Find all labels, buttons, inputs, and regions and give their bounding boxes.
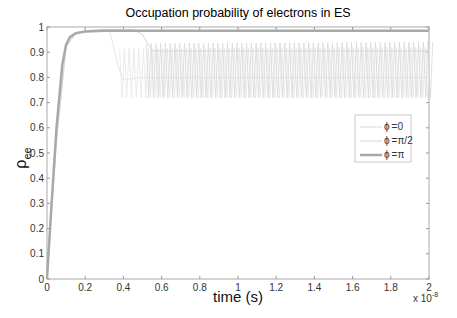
y-tick-label: 0.7 xyxy=(30,97,44,108)
y-axis-label-main: ρ xyxy=(12,160,29,169)
y-tick-label: 0 xyxy=(38,274,44,285)
x-tick-label: 1.4 xyxy=(307,282,321,293)
legend: ϕ=0 ϕ=π/2 ϕ=π xyxy=(355,115,413,162)
svg-text:ρee: ρee xyxy=(12,147,33,168)
y-tick-label: 0.1 xyxy=(30,248,44,259)
legend-label-phi-pi-half: ϕ=π/2 xyxy=(384,135,413,146)
x-tick-label: 0.6 xyxy=(155,282,169,293)
y-tick-label: 0.4 xyxy=(30,173,44,184)
chart-figure: Occupation probability of electrons in E… xyxy=(0,0,457,318)
y-tick-label: 0.2 xyxy=(30,223,44,234)
y-tick-label: 0.9 xyxy=(30,47,44,58)
x-axis-multiplier: x 10-8 xyxy=(413,291,438,304)
legend-label-phi-0: ϕ=0 xyxy=(384,121,403,132)
x-tick-label: 0 xyxy=(44,282,50,293)
y-tick-label: 0.8 xyxy=(30,72,44,83)
y-tick-label: 1 xyxy=(38,22,44,33)
x-tick-label: 0.2 xyxy=(78,282,92,293)
x-axis-label: time (s) xyxy=(213,288,263,305)
legend-label-phi-pi: ϕ=π xyxy=(384,149,404,160)
x-tick-label: 1.2 xyxy=(269,282,283,293)
y-tick-label: 0.6 xyxy=(30,122,44,133)
x-tick-label: 1.8 xyxy=(384,282,398,293)
x-tick-label: 0.8 xyxy=(193,282,207,293)
y-axis-label-sub: ee xyxy=(21,147,33,159)
y-tick-label: 0.3 xyxy=(30,198,44,209)
x-tick-label: 0.4 xyxy=(116,282,130,293)
y-axis-label: ρee xyxy=(12,147,33,168)
chart-title: Occupation probability of electrons in E… xyxy=(125,6,350,20)
x-tick-label: 1.6 xyxy=(346,282,360,293)
